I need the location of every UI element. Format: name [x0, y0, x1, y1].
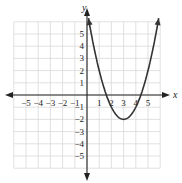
- y-tick-label: 3: [80, 53, 85, 63]
- y-tick-label: −5: [74, 151, 84, 161]
- x-tick-label: 5: [146, 98, 151, 108]
- x-tick-label: −5: [21, 98, 31, 108]
- y-tick-label: −4: [74, 139, 84, 149]
- y-tick-label: −3: [74, 127, 84, 137]
- y-axis-label: y: [81, 2, 87, 13]
- coordinate-plane: x y −5−4−3−2−112345 54321−1−2−3−4−5: [0, 0, 182, 183]
- y-tick-label: 5: [80, 29, 85, 39]
- x-tick-label: −2: [58, 98, 68, 108]
- x-axis-left-arrow-icon: [5, 92, 13, 98]
- y-tick-label: −1: [74, 102, 84, 112]
- x-tick-label: 1: [97, 98, 102, 108]
- x-tick-label: −3: [46, 98, 56, 108]
- y-tick-label: −2: [74, 114, 84, 124]
- x-tick-labels: −5−4−3−2−112345: [21, 98, 151, 108]
- x-axis-label: x: [172, 89, 178, 100]
- y-tick-label: 4: [80, 41, 85, 51]
- y-axis-down-arrow-icon: [84, 173, 90, 181]
- y-tick-label: 1: [80, 78, 85, 88]
- y-tick-label: 2: [80, 66, 85, 76]
- x-axis-right-arrow-icon: [162, 92, 170, 98]
- x-tick-label: −4: [33, 98, 43, 108]
- x-tick-label: 3: [121, 98, 126, 108]
